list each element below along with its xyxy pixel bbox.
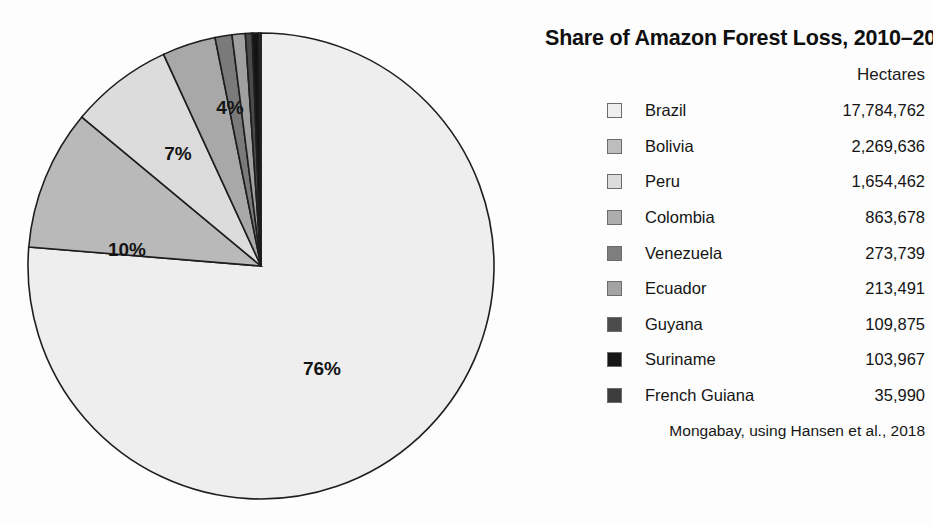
- pie-percent-label: 4%: [216, 97, 244, 118]
- legend-country-label: Brazil: [645, 93, 802, 129]
- pie-chart-svg: 76%10%7%4%: [27, 32, 495, 500]
- legend-hectares-value: 109,875: [802, 307, 933, 343]
- legend-swatch-cell: [545, 271, 645, 307]
- pie-percent-label: 76%: [303, 358, 341, 379]
- legend-country-label: Ecuador: [645, 271, 802, 307]
- legend-swatch-cell: [545, 129, 645, 165]
- legend-swatch-cell: [545, 342, 645, 378]
- legend-row[interactable]: Guyana109,875: [545, 307, 933, 343]
- legend-hectares-value: 1,654,462: [802, 164, 933, 200]
- pie-slices: [28, 33, 494, 499]
- legend-country-label: Colombia: [645, 200, 802, 236]
- color-swatch-icon: [607, 139, 622, 154]
- legend-country-label: Guyana: [645, 307, 802, 343]
- legend-hectares-value: 213,491: [802, 271, 933, 307]
- color-swatch-icon: [607, 103, 622, 118]
- legend-country-label: Bolivia: [645, 129, 802, 165]
- pie-percent-label: 7%: [164, 143, 192, 164]
- color-swatch-icon: [607, 388, 622, 403]
- color-swatch-icon: [607, 281, 622, 296]
- legend-hectares-value: 863,678: [802, 200, 933, 236]
- source-attribution: Mongabay, using Hansen et al., 2018: [545, 422, 933, 440]
- legend-swatch-cell: [545, 235, 645, 271]
- legend-swatch-cell: [545, 307, 645, 343]
- color-swatch-icon: [607, 174, 622, 189]
- legend-row[interactable]: Peru1,654,462: [545, 164, 933, 200]
- legend-row[interactable]: Suriname103,967: [545, 342, 933, 378]
- legend-hectares-value: 17,784,762: [802, 93, 933, 129]
- legend-hectares-value: 103,967: [802, 342, 933, 378]
- legend-country-label: Suriname: [645, 342, 802, 378]
- color-swatch-icon: [607, 317, 622, 332]
- legend-row[interactable]: Bolivia2,269,636: [545, 129, 933, 165]
- chart-canvas: 76%10%7%4% Share of Amazon Forest Loss, …: [0, 0, 933, 526]
- legend-row[interactable]: Ecuador213,491: [545, 271, 933, 307]
- chart-title: Share of Amazon Forest Loss, 2010–2017: [545, 26, 933, 51]
- color-swatch-icon: [607, 352, 622, 367]
- legend-swatch-cell: [545, 93, 645, 129]
- legend-table: Brazil17,784,762Bolivia2,269,636Peru1,65…: [545, 93, 933, 413]
- legend-row[interactable]: Colombia863,678: [545, 200, 933, 236]
- legend-country-label: Peru: [645, 164, 802, 200]
- legend-hectares-value: 35,990: [802, 378, 933, 414]
- legend-panel: Share of Amazon Forest Loss, 2010–2017 H…: [545, 18, 933, 508]
- legend-swatch-cell: [545, 200, 645, 236]
- color-swatch-icon: [607, 246, 622, 261]
- legend-hectares-value: 273,739: [802, 235, 933, 271]
- legend-row[interactable]: Brazil17,784,762: [545, 93, 933, 129]
- legend-swatch-cell: [545, 378, 645, 414]
- legend-row[interactable]: Venezuela273,739: [545, 235, 933, 271]
- legend-country-label: Venezuela: [645, 235, 802, 271]
- color-swatch-icon: [607, 210, 622, 225]
- legend-hectares-value: 2,269,636: [802, 129, 933, 165]
- pie-chart: 76%10%7%4%: [27, 32, 495, 500]
- pie-percent-label: 10%: [108, 239, 146, 260]
- legend-swatch-cell: [545, 164, 645, 200]
- legend-value-header: Hectares: [545, 65, 933, 85]
- legend-country-label: French Guiana: [645, 378, 802, 414]
- legend-row[interactable]: French Guiana35,990: [545, 378, 933, 414]
